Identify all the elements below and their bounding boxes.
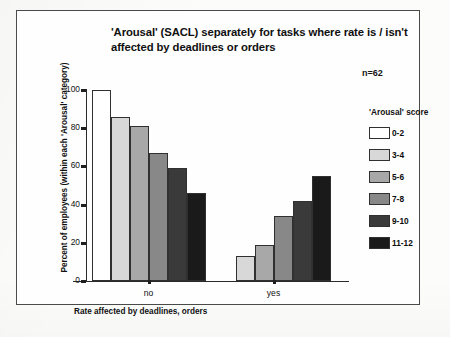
bar (274, 216, 293, 281)
x-axis-title: Rate affected by deadlines, orders (74, 307, 207, 316)
y-axis-tick-label: 100 (54, 84, 80, 94)
legend-swatch (369, 127, 390, 139)
x-axis-category-label: no (119, 288, 179, 298)
x-axis-category-label: yes (244, 288, 304, 298)
bar (255, 245, 274, 281)
legend-item-label: 5-6 (392, 172, 404, 182)
x-axis-tick (148, 280, 151, 284)
y-axis-tick-label: 60 (54, 160, 80, 170)
legend-item-label: 0-2 (392, 128, 404, 138)
scanned-page: 'Arousal' (SACL) separately for tasks wh… (0, 0, 450, 337)
bar (236, 256, 255, 281)
y-axis-tick-label: 20 (54, 237, 80, 247)
legend-item: 5-6 (369, 170, 439, 183)
legend-item-label: 9-10 (392, 216, 409, 226)
legend-item: 11-12 (369, 236, 439, 249)
legend-item-label: 11-12 (392, 238, 413, 248)
legend-swatch (369, 171, 390, 183)
legend-item-label: 7-8 (392, 194, 404, 204)
chart-title: 'Arousal' (SACL) separately for tasks wh… (111, 25, 411, 55)
legend-item: 9-10 (369, 214, 439, 227)
chart-legend: 'Arousal' score 0-23-45-67-89-1011-12 (369, 107, 439, 258)
bar (312, 176, 331, 281)
legend-swatch (369, 215, 390, 227)
legend-item: 3-4 (369, 148, 439, 161)
bar (130, 126, 149, 281)
bar (168, 168, 187, 281)
bar (187, 193, 206, 281)
bar (92, 90, 111, 281)
chart-frame: 'Arousal' (SACL) separately for tasks wh… (16, 10, 420, 305)
chart-title-line2: affected by deadlines or orders (111, 40, 411, 55)
chart-title-line1: 'Arousal' (SACL) separately for tasks wh… (111, 25, 411, 40)
y-axis-tick-label: 40 (54, 199, 80, 209)
bar (149, 153, 168, 281)
y-axis-tick-label: 80 (54, 122, 80, 132)
legend-item: 0-2 (369, 126, 439, 139)
x-axis-line (73, 281, 349, 282)
legend-swatch (369, 149, 390, 161)
y-axis-tick-label: 0 (54, 275, 80, 285)
legend-title: 'Arousal' score (369, 107, 439, 117)
plot-area (86, 90, 336, 281)
bar (111, 117, 130, 281)
sample-size-annotation: n=62 (362, 68, 383, 78)
legend-swatch (369, 237, 390, 249)
legend-item-label: 3-4 (392, 150, 404, 160)
bar (293, 201, 312, 281)
x-axis-tick (273, 280, 276, 284)
legend-swatch (369, 193, 390, 205)
legend-item: 7-8 (369, 192, 439, 205)
